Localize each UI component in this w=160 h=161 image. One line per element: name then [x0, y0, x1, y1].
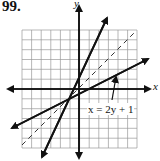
steep-line-top [42, 18, 107, 157]
x-axis-label: x [153, 80, 158, 92]
graph [0, 0, 160, 161]
equation-label: x = 2y + 1 [87, 103, 134, 115]
axes [8, 6, 150, 158]
y-axis-label: y [74, 0, 79, 9]
